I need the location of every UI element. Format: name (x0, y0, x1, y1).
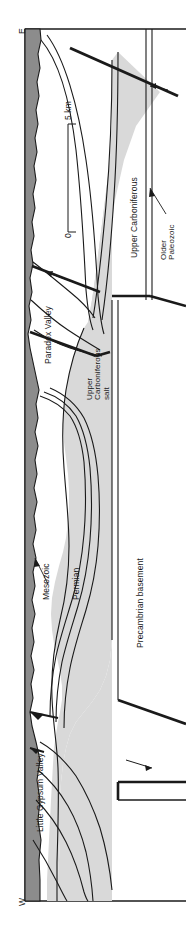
uc-salt-line-3: salt (103, 348, 111, 400)
valley-label-little-gypsum-valley: Little Gypsum Valley (36, 753, 45, 832)
scale-bar-bottom-label: 0 (64, 233, 73, 238)
unit-label-older-paleozoic: Older Paleozoic (160, 224, 177, 260)
unit-label-upper-carboniferous: Upper Carboniferous (130, 177, 139, 258)
fault-slip-arrow-south (126, 760, 152, 771)
unit-label-precambrian-basement: Precambrian basement (136, 558, 145, 648)
upper-carboniferous-salt-unit (47, 52, 160, 901)
fault-slip-arrow-paradox (46, 271, 76, 283)
scale-bar-top-label: 5 km (64, 101, 73, 120)
unit-label-permian: Permian (72, 568, 81, 600)
cross-section-figure: E W 5 km 0 Upper Carboniferous Older Pal… (0, 0, 186, 930)
valley-label-paradox-valley: Paradox Valley (44, 306, 53, 364)
unit-label-mesozoic: Mesozoic (42, 563, 51, 600)
cross-section-drawing (0, 0, 186, 930)
compass-west-label: W (18, 898, 27, 906)
compass-east-label: E (18, 28, 27, 34)
older-paleozoic-line-2: Paleozoic (168, 224, 176, 260)
unit-label-upper-carboniferous-salt: Upper Carboniferous salt (86, 348, 111, 400)
